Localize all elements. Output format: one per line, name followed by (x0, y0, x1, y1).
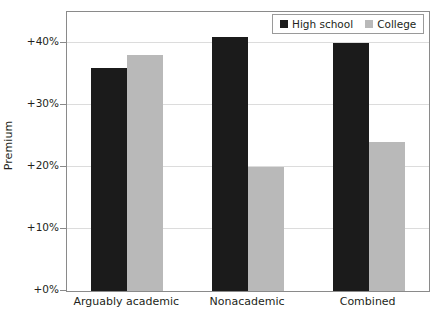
y-axis-tick-label: +0% (14, 283, 59, 295)
bar-college (369, 142, 405, 291)
plot-inner (67, 12, 429, 291)
x-axis-tick-label: Combined (340, 295, 396, 308)
legend-entry-college: College (365, 18, 416, 30)
x-axis-tick-label: Arguably academic (73, 295, 179, 308)
bar-high-school (91, 68, 127, 291)
x-axis-tick-label: Nonacademic (209, 295, 284, 308)
bar-college (127, 55, 163, 291)
bar-college (248, 167, 284, 291)
bar-high-school (212, 37, 248, 291)
bar-high-school (333, 43, 369, 291)
y-axis-tick (60, 104, 67, 105)
legend-entry-high-school: High school (280, 18, 353, 30)
plot-area (66, 11, 430, 292)
y-axis-tick-label: +40% (14, 35, 59, 47)
y-axis-tick-label: +20% (14, 159, 59, 171)
bar-chart: Premium +0%+10%+20%+30%+40% Arguably aca… (0, 0, 438, 323)
y-axis-tick-label: +10% (14, 221, 59, 233)
legend-swatch-college-icon (365, 20, 373, 28)
legend-swatch-high-school-icon (280, 20, 288, 28)
y-axis-tick (60, 290, 67, 291)
gridline (67, 42, 429, 43)
y-axis-tick (60, 228, 67, 229)
legend-label-college: College (377, 18, 416, 30)
chart-legend: High school College (272, 14, 424, 34)
y-axis-tick-label: +30% (14, 97, 59, 109)
y-axis-tick (60, 42, 67, 43)
y-axis-tick (60, 166, 67, 167)
legend-label-high-school: High school (292, 18, 353, 30)
